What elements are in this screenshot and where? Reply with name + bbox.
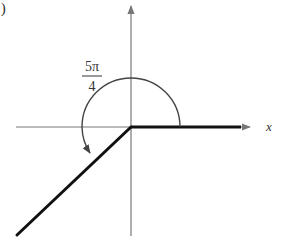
part-label: ): [1, 1, 6, 17]
terminal-side-ray: [17, 127, 131, 235]
angle-label-numerator: 5π: [85, 59, 99, 74]
angle-diagram: ) x 5π 4: [0, 0, 285, 243]
x-axis-label: x: [265, 119, 272, 134]
angle-label: 5π 4: [82, 59, 102, 94]
angle-label-denominator: 4: [89, 79, 96, 94]
